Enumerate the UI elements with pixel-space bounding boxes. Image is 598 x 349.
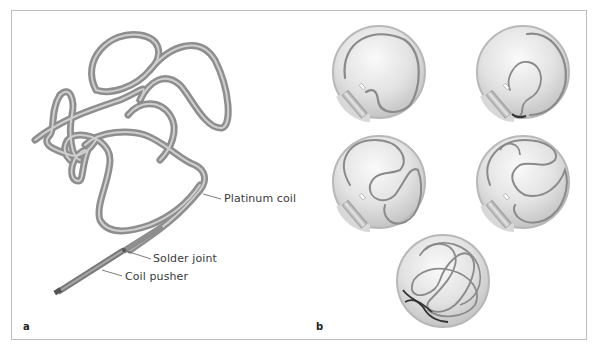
panel-letter-b: b: [316, 321, 323, 332]
solder-joint-marker: [122, 248, 126, 252]
aneurysm-step-5: [397, 235, 489, 327]
coil-pusher-shape: [53, 250, 124, 295]
label-solder-joint: Solder joint: [153, 252, 217, 265]
label-coil-pusher: Coil pusher: [125, 270, 188, 283]
panel-a-coil-illustration: [0, 0, 598, 349]
panel-letter-a: a: [23, 321, 30, 332]
aneurysm-step-3: [333, 136, 425, 228]
aneurysm-step-4: [477, 136, 569, 228]
platinum-coil-shape: [35, 34, 228, 250]
label-platinum-coil: Platinum coil: [224, 192, 296, 205]
aneurysm-step-2: [477, 26, 569, 118]
aneurysm-step-1: [333, 26, 425, 118]
